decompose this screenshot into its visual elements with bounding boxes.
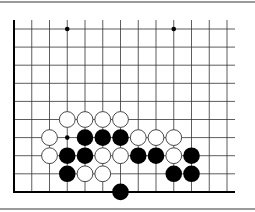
white-stone[interactable] [77,166,93,182]
go-board[interactable] [0,0,255,212]
white-stone[interactable] [166,148,182,164]
stones [42,112,200,201]
white-stone[interactable] [130,130,146,146]
black-stone[interactable] [112,184,129,201]
black-stone[interactable] [165,166,182,183]
white-stone[interactable] [42,148,58,164]
white-stone[interactable] [77,112,93,128]
white-stone[interactable] [59,112,75,128]
star-point [171,27,176,32]
markers [65,135,70,140]
black-stone[interactable] [130,147,147,164]
black-stone[interactable] [59,166,76,183]
white-stone[interactable] [95,166,111,182]
black-stone[interactable] [77,129,94,146]
point-marker-dot [65,135,70,140]
black-stone[interactable] [112,129,129,146]
white-stone[interactable] [95,148,111,164]
white-stone[interactable] [42,130,58,146]
white-stone[interactable] [95,112,111,128]
black-stone[interactable] [183,166,200,183]
white-stone[interactable] [148,130,164,146]
black-stone[interactable] [59,147,76,164]
black-stone[interactable] [94,129,111,146]
white-stone[interactable] [113,112,129,128]
white-stone[interactable] [113,148,129,164]
star-point [65,27,70,32]
white-stone[interactable] [166,130,182,146]
grid-lines [13,20,235,193]
black-stone[interactable] [77,147,94,164]
black-stone[interactable] [148,147,165,164]
black-stone[interactable] [183,147,200,164]
